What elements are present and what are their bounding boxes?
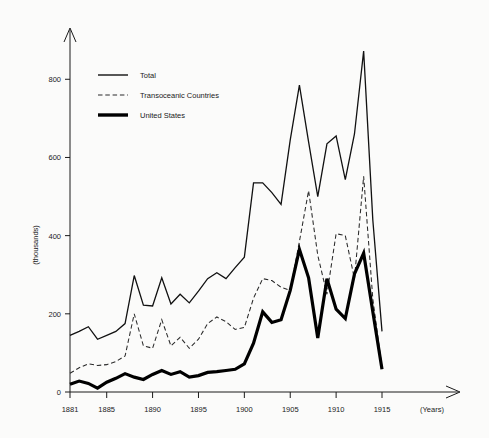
axes-group: [64, 28, 460, 398]
y-axis-title: (thousands): [31, 225, 40, 265]
y-tick-label: 800: [48, 75, 61, 84]
y-tick-label: 600: [48, 153, 61, 162]
x-axis-ticks: 18811885189018951900190519101915: [62, 392, 391, 414]
x-tick-label: 1895: [190, 405, 207, 414]
series-line-transoceanic-countries: [70, 176, 382, 373]
series-line-united-states: [70, 249, 382, 388]
x-tick-label: 1881: [62, 405, 79, 414]
y-tick-label: 0: [57, 388, 61, 397]
x-tick-label: 1905: [282, 405, 299, 414]
x-tick-label: 1890: [144, 405, 161, 414]
x-axis-title: (Years): [420, 405, 444, 414]
y-tick-label: 200: [48, 310, 61, 319]
legend-item-label-total: Total: [140, 71, 156, 80]
data-series-group: [70, 51, 382, 388]
chart-legend: Total Transoceanic Countries United Stat…: [98, 71, 219, 120]
legend-item-label-united-states: United States: [140, 111, 185, 120]
x-tick-label: 1915: [374, 405, 391, 414]
chart-canvas: 0200400600800 18811885189018951900190519…: [0, 0, 489, 438]
x-tick-label: 1900: [236, 405, 253, 414]
series-line-total: [70, 51, 382, 339]
y-tick-label: 400: [48, 232, 61, 241]
x-tick-label: 1885: [98, 405, 115, 414]
y-axis-ticks: 0200400600800: [48, 75, 70, 397]
legend-item-label-transoceanic-countries: Transoceanic Countries: [140, 91, 219, 100]
x-tick-label: 1910: [328, 405, 345, 414]
line-chart-figure: 0200400600800 18811885189018951900190519…: [0, 0, 489, 438]
